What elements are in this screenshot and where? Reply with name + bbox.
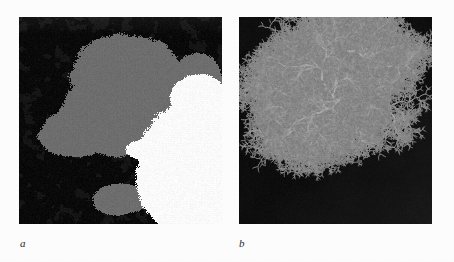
percolation-cluster-image: [19, 17, 222, 224]
dla-dendrite-panel: [239, 17, 432, 224]
panel-a-label: a: [20, 238, 26, 249]
dla-dendrite-image: [239, 17, 432, 224]
figure-root: a b: [0, 0, 454, 262]
panel-b-label: b: [239, 238, 245, 249]
percolation-cluster-panel: [19, 17, 222, 224]
